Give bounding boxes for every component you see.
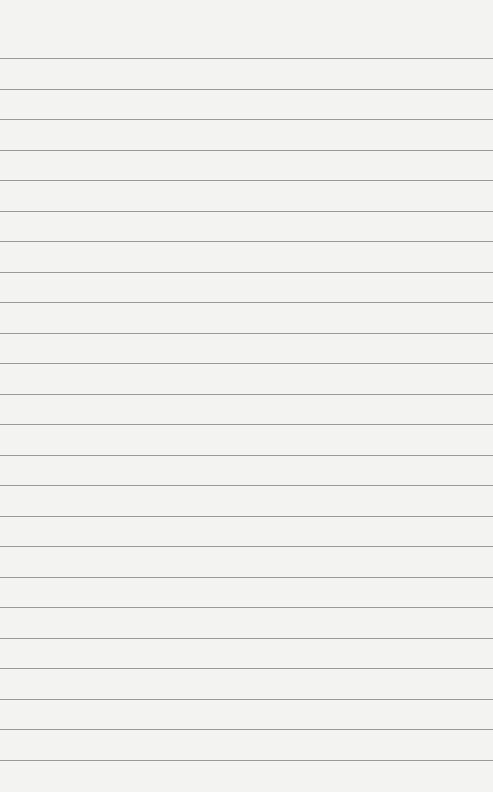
ruled-line [0,211,493,212]
ruled-line [0,272,493,273]
ruled-line [0,516,493,517]
ruled-line [0,760,493,761]
ruled-line [0,58,493,59]
ruled-line [0,668,493,669]
ruled-line [0,119,493,120]
ruled-line [0,455,493,456]
ruled-line [0,577,493,578]
ruled-line [0,607,493,608]
ruled-line [0,302,493,303]
ruled-line [0,729,493,730]
lined-paper [0,0,493,792]
ruled-line [0,89,493,90]
ruled-line [0,394,493,395]
ruled-line [0,150,493,151]
ruled-line [0,638,493,639]
ruled-line [0,485,493,486]
ruled-line [0,363,493,364]
ruled-line [0,180,493,181]
ruled-line [0,241,493,242]
ruled-line [0,424,493,425]
ruled-line [0,699,493,700]
ruled-line [0,333,493,334]
ruled-line [0,546,493,547]
